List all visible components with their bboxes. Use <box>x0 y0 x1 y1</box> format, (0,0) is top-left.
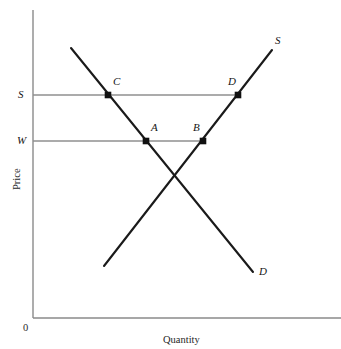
point-marker-d <box>235 92 241 98</box>
point-label-b: B <box>193 122 200 133</box>
y-tick-label-w: W <box>17 135 26 146</box>
point-label-d: D <box>228 76 236 87</box>
point-marker-c <box>105 92 111 98</box>
demand-curve <box>71 48 253 272</box>
x-axis-title: Quantity <box>163 335 200 346</box>
origin-label: 0 <box>23 323 28 334</box>
point-marker-a <box>143 138 149 144</box>
y-tick-label-s: S <box>18 89 24 100</box>
supply-curve <box>104 50 272 266</box>
y-axis-title: Price <box>12 168 23 190</box>
chart-canvas <box>0 0 341 349</box>
point-label-a: A <box>151 122 158 133</box>
supply-curve-label: S <box>275 35 281 46</box>
supply-demand-chart: S W C D A B S D 0 Quantity Price <box>0 0 341 349</box>
demand-curve-label: D <box>259 266 267 277</box>
point-label-c: C <box>113 76 120 87</box>
point-marker-b <box>200 138 206 144</box>
